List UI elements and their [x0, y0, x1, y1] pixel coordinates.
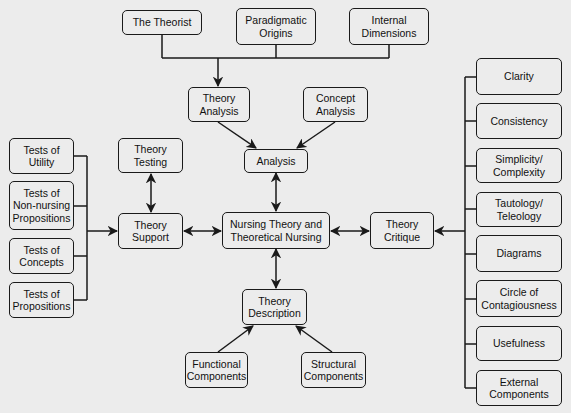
- node-simplicity-complexity: Simplicity/ Complexity: [476, 148, 562, 183]
- node-circle-of-contagiousness: Circle of Contagiousness: [476, 280, 562, 317]
- node-theory-testing: Theory Testing: [118, 138, 183, 173]
- node-consistency: Consistency: [476, 103, 562, 139]
- node-label: Tests of Non-nursing Propositions: [13, 187, 71, 225]
- node-tests-of-utility: Tests of Utility: [9, 138, 74, 174]
- node-concept-analysis: Concept Analysis: [303, 87, 368, 122]
- node-label: The Theorist: [133, 16, 192, 29]
- diagram-canvas: The Theorist Paradigmatic Origins Intern…: [0, 0, 571, 413]
- node-the-theorist: The Theorist: [122, 10, 202, 35]
- node-paradigmatic-origins: Paradigmatic Origins: [236, 8, 316, 45]
- node-label: External Components: [489, 376, 549, 401]
- node-tautology-teleology: Tautology/ Teleology: [476, 192, 562, 227]
- node-diagrams: Diagrams: [476, 235, 562, 272]
- node-clarity: Clarity: [476, 58, 562, 95]
- node-label: Tests of Utility: [23, 144, 59, 169]
- node-label: Paradigmatic Origins: [245, 14, 306, 39]
- node-structural-components: Structural Components: [301, 352, 366, 388]
- node-external-components: External Components: [476, 370, 562, 406]
- node-tests-of-propositions: Tests of Propositions: [9, 282, 74, 318]
- node-label: Simplicity/ Complexity: [493, 153, 545, 178]
- node-theory-description: Theory Description: [242, 289, 307, 325]
- node-internal-dimensions: Internal Dimensions: [349, 8, 429, 45]
- node-theory-support: Theory Support: [118, 213, 183, 249]
- node-label: Consistency: [490, 115, 547, 128]
- node-usefulness: Usefulness: [476, 326, 562, 361]
- node-label: Tests of Propositions: [13, 288, 71, 313]
- node-tests-of-concepts: Tests of Concepts: [9, 238, 74, 274]
- node-label: Diagrams: [497, 247, 542, 260]
- node-tests-of-non-nursing-propositions: Tests of Non-nursing Propositions: [9, 181, 74, 230]
- node-functional-components: Functional Components: [185, 352, 248, 388]
- node-label: Structural Components: [304, 358, 364, 383]
- node-theory-critique: Theory Critique: [370, 212, 434, 249]
- node-label: Circle of Contagiousness: [481, 286, 556, 311]
- node-analysis: Analysis: [244, 149, 308, 173]
- node-label: Theory Description: [248, 295, 301, 320]
- node-label: Nursing Theory and Theoretical Nursing: [230, 218, 322, 243]
- node-label: Tautology/ Teleology: [495, 197, 543, 222]
- node-label: Analysis: [256, 155, 295, 168]
- node-label: Theory Support: [132, 219, 169, 244]
- node-label: Internal Dimensions: [362, 14, 417, 39]
- node-label: Theory Analysis: [199, 92, 238, 117]
- node-theory-analysis: Theory Analysis: [188, 87, 250, 122]
- node-label: Concept Analysis: [316, 92, 355, 117]
- node-label: Tests of Concepts: [19, 244, 63, 269]
- node-label: Clarity: [504, 70, 534, 83]
- node-label: Theory Testing: [134, 143, 167, 168]
- node-label: Usefulness: [493, 337, 545, 350]
- node-label: Functional Components: [187, 358, 247, 383]
- node-label: Theory Critique: [384, 218, 420, 243]
- node-nursing-theory-center: Nursing Theory and Theoretical Nursing: [222, 212, 330, 249]
